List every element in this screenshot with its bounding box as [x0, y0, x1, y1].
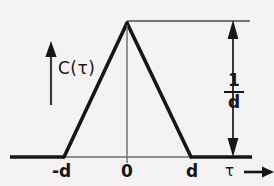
y-axis-arrow — [45, 41, 56, 105]
x-tick-label-negative-d: -d — [52, 163, 71, 180]
autocorrelation-figure: C(τ) -d 0 d τ 1 d — [0, 0, 274, 186]
x-tick-label-zero: 0 — [121, 163, 133, 180]
curve-rising-edge — [64, 23, 127, 157]
x-tick-label-positive-d: d — [186, 163, 198, 180]
x-axis-arrow — [244, 167, 274, 178]
fraction-numerator: 1 — [224, 72, 244, 90]
amplitude-fraction-label: 1 d — [224, 72, 244, 112]
x-axis-symbol-label: τ — [225, 164, 234, 179]
y-axis-label: C(τ) — [58, 60, 95, 77]
curve-falling-edge — [127, 23, 191, 157]
fraction-denominator: d — [224, 94, 244, 112]
